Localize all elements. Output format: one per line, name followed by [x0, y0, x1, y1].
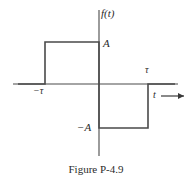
amplitude-positive-label: A — [103, 38, 110, 49]
amplitude-negative-label: −A — [77, 122, 91, 133]
tick-label-negative-tau: −τ — [33, 86, 43, 96]
waveform-plot — [0, 0, 192, 183]
x-axis-label: t — [153, 90, 156, 100]
tick-label-positive-tau: τ — [145, 65, 149, 75]
y-axis-label: f(t) — [101, 8, 114, 19]
figure-container: f(t) A −A −τ τ t Figure P-4.9 — [0, 0, 192, 183]
t-axis-arrow-head — [178, 93, 184, 99]
figure-caption: Figure P-4.9 — [0, 163, 192, 175]
